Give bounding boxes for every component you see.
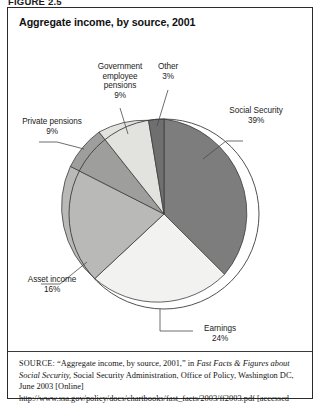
- leader-line-private-pensions: [39, 142, 84, 149]
- pie-label-social-security: Social Security 39%: [210, 106, 302, 125]
- source-divider: [8, 351, 312, 352]
- pie-label-government-employee-pensions: Government employee pensions 9%: [70, 62, 170, 100]
- chart-title: Aggregate income, by source, 2001: [19, 16, 195, 28]
- figure-frame: Aggregate income, by source, 2001: [7, 7, 313, 399]
- figure-number-label: FIGURE 2.5: [8, 0, 62, 5]
- pie-chart: Social Security 39% Other 3% Government …: [8, 34, 311, 341]
- source-note: SOURCE: “Aggregate income, by source, 20…: [19, 358, 303, 405]
- source-kicker: SOURCE:: [19, 359, 55, 368]
- pie-label-earnings: Earnings 24%: [188, 324, 252, 343]
- pie-label-asset-income: Asset income 16%: [10, 275, 94, 294]
- source-text-1: “Aggregate income, by source, 2001,” in: [55, 359, 196, 368]
- pie-label-private-pensions: Private pensions 9%: [10, 117, 94, 136]
